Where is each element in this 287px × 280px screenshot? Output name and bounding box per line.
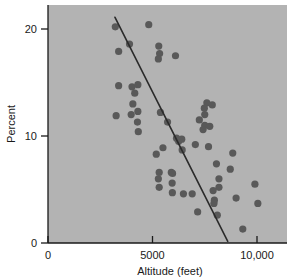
data-point (128, 111, 135, 118)
data-point (206, 123, 213, 130)
data-point (134, 81, 141, 88)
y-axis-title: Percent (5, 105, 17, 143)
data-point (199, 126, 206, 133)
data-point (189, 190, 196, 197)
data-point (209, 101, 216, 108)
chart-canvas: 01020 0500010,000 Percent Altitude (feet… (0, 0, 287, 280)
scatter-plot-figure: 01020 0500010,000 Percent Altitude (feet… (0, 0, 287, 280)
data-point (196, 116, 203, 123)
data-point (134, 118, 141, 125)
data-point (201, 105, 208, 112)
data-point (135, 128, 142, 135)
data-point (215, 175, 222, 182)
data-point (129, 100, 136, 107)
data-point (153, 151, 160, 158)
data-point (131, 90, 138, 97)
data-point (254, 200, 261, 207)
data-point (210, 187, 217, 194)
data-point (210, 200, 217, 207)
data-point (229, 150, 236, 157)
data-point (169, 170, 176, 177)
data-point (201, 111, 208, 118)
data-point (156, 184, 163, 191)
y-tick-label: 20 (25, 23, 37, 35)
data-point (169, 189, 176, 196)
x-tick-label: 0 (45, 249, 51, 261)
data-point (115, 48, 122, 55)
data-point (155, 175, 162, 182)
x-axis-title: Altitude (feet) (137, 265, 202, 277)
x-tick-label: 10,000 (240, 249, 274, 261)
data-point (156, 169, 163, 176)
data-point (180, 190, 187, 197)
data-point (159, 144, 166, 151)
data-point (205, 143, 212, 150)
y-tick-label: 0 (31, 237, 37, 249)
data-point (178, 136, 185, 143)
data-point (233, 194, 240, 201)
data-point (134, 108, 141, 115)
data-point (155, 43, 162, 50)
x-tick-label: 5000 (140, 249, 164, 261)
data-point (213, 160, 220, 167)
data-point (239, 225, 246, 232)
data-point (155, 55, 162, 62)
y-tick-label: 10 (25, 130, 37, 142)
data-point (169, 179, 176, 186)
data-point (115, 82, 122, 89)
data-point (227, 166, 234, 173)
y-axis-ticks: 01020 (25, 23, 48, 249)
data-point (172, 52, 179, 59)
data-point (192, 141, 199, 148)
data-point (113, 112, 120, 119)
data-point (194, 208, 201, 215)
data-point (145, 21, 152, 28)
data-point (251, 181, 258, 188)
